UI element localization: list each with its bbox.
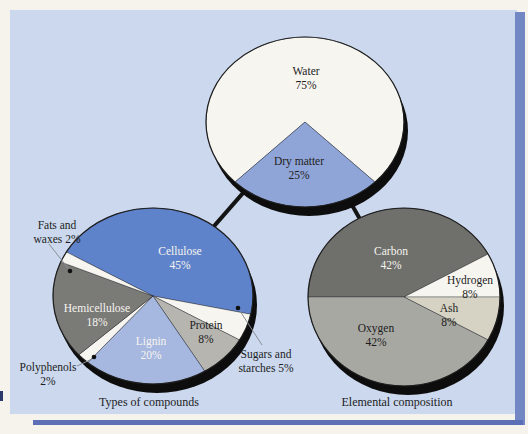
slice-label-lignin-line-2: 20% bbox=[140, 349, 162, 361]
caption-types-of-compounds: Types of compounds bbox=[99, 395, 199, 409]
slice-label-hemicellulose-line-2: 18% bbox=[86, 316, 108, 328]
slice-label-oxygen-line-2: 42% bbox=[365, 336, 387, 348]
slice-label-carbon-line-1: Carbon bbox=[374, 245, 408, 257]
slice-label-protein-line-2: 8% bbox=[198, 333, 214, 345]
slice-label-oxygen-line-1: Oxygen bbox=[358, 322, 395, 335]
slice-label-lignin-line-1: Lignin bbox=[136, 335, 167, 348]
slice-label-cellulose-line-2: 45% bbox=[169, 259, 191, 271]
slice-label-ash-line-2: 8% bbox=[441, 316, 457, 328]
pie-charts-canvas: Types of compounds Elemental composition… bbox=[0, 0, 528, 434]
leader-dot-polyphenols bbox=[92, 355, 97, 360]
slice-label-dry-matter-line-1: Dry matter bbox=[274, 155, 324, 168]
slice-label-hemicellulose-line-1: Hemicellulose bbox=[64, 302, 130, 314]
callout-label-fats-and-waxes-line-2: waxes 2% bbox=[34, 233, 81, 245]
slice-label-water-line-1: Water bbox=[292, 65, 319, 77]
callout-label-polyphenols-line-2: 2% bbox=[40, 375, 56, 387]
callout-label-sugars-and-starches-line-1: Sugars and bbox=[241, 348, 292, 361]
leader-dot-fats-and-waxes bbox=[68, 269, 73, 274]
slice-label-ash-line-1: Ash bbox=[440, 302, 459, 314]
slice-label-hydrogen-line-2: 8% bbox=[462, 288, 478, 300]
caption-elemental-composition: Elemental composition bbox=[342, 395, 453, 409]
callout-label-fats-and-waxes-line-1: Fats and bbox=[38, 219, 77, 231]
slice-label-protein-line-1: Protein bbox=[189, 319, 222, 331]
slice-label-water-line-2: 75% bbox=[295, 79, 317, 91]
figure-page: Types of compounds Elemental composition… bbox=[0, 0, 528, 434]
slice-label-carbon-line-2: 42% bbox=[380, 259, 402, 271]
slice-label-hydrogen-line-1: Hydrogen bbox=[447, 274, 493, 287]
callout-label-polyphenols-line-1: Polyphenols bbox=[20, 361, 77, 374]
callout-label-sugars-and-starches-line-2: starches 5% bbox=[238, 362, 294, 374]
slice-label-dry-matter-line-2: 25% bbox=[288, 169, 310, 181]
leader-dot-sugars-and-starches bbox=[236, 306, 241, 311]
slice-label-cellulose-line-1: Cellulose bbox=[158, 245, 201, 257]
